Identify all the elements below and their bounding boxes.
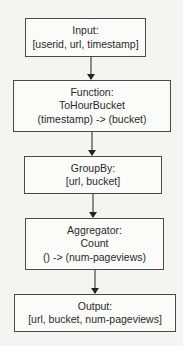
node-function: Function: ToHourBucket (timestamp) -> (b… xyxy=(13,80,171,132)
node-groupby: GroupBy: [url, bucket] xyxy=(24,156,162,194)
node-input: Input: [userid, url, timestamp] xyxy=(25,18,146,57)
node-input-title: Input: xyxy=(72,24,98,38)
node-aggregator-signature: () -> (num-pageviews) xyxy=(43,251,146,265)
node-groupby-fields: [url, bucket] xyxy=(66,175,120,189)
node-function-name: ToHourBucket xyxy=(59,99,125,113)
node-aggregator: Aggregator: Count () -> (num-pageviews) xyxy=(25,218,164,270)
node-output: Output: [url, bucket, num-pageviews] xyxy=(14,294,176,332)
node-output-title: Output: xyxy=(78,300,112,314)
node-function-title: Function: xyxy=(70,86,113,100)
node-aggregator-name: Count xyxy=(80,237,108,251)
node-function-signature: (timestamp) -> (bucket) xyxy=(38,113,147,127)
node-input-fields: [userid, url, timestamp] xyxy=(32,38,138,52)
node-aggregator-title: Aggregator: xyxy=(67,224,122,238)
node-output-fields: [url, bucket, num-pageviews] xyxy=(28,313,162,327)
node-groupby-title: GroupBy: xyxy=(71,162,115,176)
